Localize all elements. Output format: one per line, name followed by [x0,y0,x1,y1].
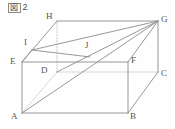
construction-line-IG [32,21,158,50]
vertex-label-d: D [41,66,48,75]
vertex-label-c: C [161,69,167,78]
construction-line-IJ [32,50,90,57]
edge-BC [128,72,158,113]
vertex-label-h: H [46,12,53,21]
construction-line-EI [22,50,32,62]
vertex-label-e: E [10,57,16,66]
vertex-label-a: A [11,112,18,121]
vertex-label-g: G [161,15,168,24]
vertex-label-f: F [131,56,136,65]
figure-container: 図2 ABCDEFGHIJ [0,0,175,129]
cuboid-drawing [0,0,175,129]
vertex-label-b: B [130,112,136,121]
vertex-label-i: I [24,38,27,47]
construction-line-DG [57,21,158,72]
vertex-label-j: J [85,41,89,50]
